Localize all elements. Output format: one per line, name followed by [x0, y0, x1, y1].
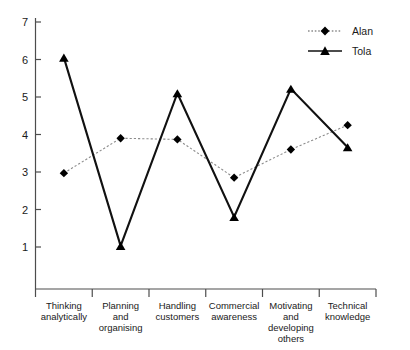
- x-category-label: analytically: [41, 311, 88, 322]
- x-category-label: and: [113, 311, 129, 322]
- y-tick-label: 7: [22, 16, 28, 28]
- y-tick-label: 6: [22, 54, 28, 66]
- data-point-marker-diamond[interactable]: [173, 135, 181, 143]
- series-tola: [59, 54, 352, 250]
- x-category-label: developing: [268, 322, 314, 333]
- x-category-label: Planning: [102, 300, 139, 311]
- data-point-marker-triangle[interactable]: [59, 54, 69, 62]
- legend-label-alan: Alan: [352, 25, 373, 37]
- x-category-label: organising: [99, 322, 143, 333]
- x-category-label: Technical: [328, 300, 368, 311]
- y-tick-marks: [36, 22, 42, 247]
- x-tick-marks: [36, 289, 377, 297]
- x-category-label: knowledge: [325, 311, 370, 322]
- x-category-label: and: [283, 311, 299, 322]
- series-alan: [60, 121, 352, 182]
- x-category-label: Handling: [159, 300, 197, 311]
- y-tick-label: 4: [22, 129, 28, 141]
- series-line: [64, 125, 348, 178]
- series-line: [64, 58, 348, 246]
- y-tick-labels: 7 6 5 4 3 2 1: [22, 16, 28, 253]
- x-category-labels: ThinkinganalyticallyPlanningandorganisin…: [41, 300, 371, 344]
- data-point-marker-diamond[interactable]: [343, 121, 351, 129]
- legend-label-tola: Tola: [352, 45, 371, 57]
- line-chart: 7 6 5 4 3 2 1 ThinkinganalyticallyPlanni…: [0, 0, 410, 350]
- x-category-label: Motivating: [269, 300, 312, 311]
- x-category-label: customers: [155, 311, 199, 322]
- x-category-label: Thinking: [46, 300, 82, 311]
- data-point-marker-triangle[interactable]: [229, 213, 239, 221]
- data-point-marker-triangle[interactable]: [286, 85, 296, 93]
- data-point-marker-diamond[interactable]: [287, 145, 295, 153]
- chart-page: 7 6 5 4 3 2 1 ThinkinganalyticallyPlanni…: [0, 0, 410, 350]
- data-point-marker-diamond[interactable]: [230, 173, 238, 181]
- y-tick-label: 5: [22, 91, 28, 103]
- data-point-marker-diamond[interactable]: [60, 169, 68, 177]
- legend-entry-tola[interactable]: Tola: [308, 45, 371, 57]
- legend-marker-diamond-icon: [321, 27, 330, 36]
- x-category-label: Commercial: [209, 300, 260, 311]
- legend: Alan Tola: [308, 25, 373, 57]
- data-point-marker-triangle[interactable]: [173, 89, 183, 97]
- y-tick-label: 1: [22, 241, 28, 253]
- x-category-label: awareness: [211, 311, 257, 322]
- data-point-marker-triangle[interactable]: [116, 242, 126, 250]
- legend-entry-alan[interactable]: Alan: [308, 25, 373, 37]
- data-point-marker-diamond[interactable]: [116, 134, 124, 142]
- y-tick-label: 2: [22, 204, 28, 216]
- y-tick-label: 3: [22, 166, 28, 178]
- x-category-label: others: [278, 333, 305, 344]
